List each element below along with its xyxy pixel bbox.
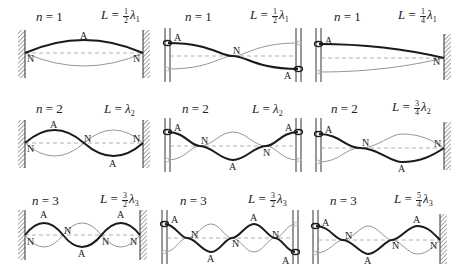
node-marker: N	[191, 230, 198, 240]
node-marker: N	[232, 239, 239, 249]
antinode-marker: A	[284, 71, 291, 81]
right-wall	[444, 34, 451, 80]
antinode-marker: A	[40, 210, 47, 220]
node-marker: N	[27, 144, 34, 154]
node-marker: N	[102, 237, 109, 247]
antinode-marker: A	[325, 125, 332, 135]
node-marker: N	[345, 231, 352, 241]
mode-label-n: n = 3	[32, 194, 59, 207]
antinode-marker: A	[174, 33, 181, 43]
node-marker: N	[430, 241, 437, 251]
antinode-marker: A	[250, 213, 257, 223]
antinode-marker: A	[398, 164, 405, 174]
antinode-marker: A	[322, 218, 329, 228]
wave-ghost	[319, 58, 444, 72]
mode-label-n: n = 2	[331, 102, 358, 115]
node-marker: N	[201, 136, 208, 146]
length-label: L = 54λ3	[394, 192, 433, 209]
node-marker: N	[64, 226, 71, 236]
antinode-marker: A	[282, 256, 289, 266]
antinode-marker: A	[117, 210, 124, 220]
node-marker: N	[433, 57, 440, 67]
antinode-marker: A	[229, 162, 236, 172]
length-label: L = λ2	[104, 102, 135, 118]
length-label: L = 32λ3	[248, 192, 287, 209]
wave-main	[25, 40, 143, 53]
wave-ghost	[25, 53, 143, 66]
left-wall	[18, 30, 25, 78]
node-marker: N	[233, 46, 240, 56]
node-marker: N	[133, 134, 140, 144]
antinode-marker: A	[174, 123, 181, 133]
node-marker: N	[133, 54, 140, 64]
node-marker: N	[272, 230, 279, 240]
length-label: L = 12λ1	[250, 8, 289, 25]
mode-label-n: n = 1	[334, 10, 361, 23]
length-label: L = 34λ2	[392, 100, 431, 117]
mode-label-n: n = 2	[182, 102, 209, 115]
length-label: L = λ2	[252, 102, 283, 118]
node-marker: N	[434, 139, 441, 149]
mode-label-n: n = 1	[185, 10, 212, 23]
right-wall	[143, 30, 150, 78]
antinode-marker: A	[325, 36, 332, 46]
antinode-marker: A	[78, 249, 85, 259]
node-marker: N	[362, 138, 369, 148]
node-marker: N	[130, 237, 137, 247]
node-marker: N	[27, 54, 34, 64]
antinode-marker: A	[207, 254, 214, 264]
wave-main	[319, 44, 444, 58]
panel-fixed-fixed-n2	[18, 120, 150, 168]
antinode-marker: A	[413, 215, 420, 225]
mode-label-n: n = 3	[330, 194, 357, 207]
mode-label-n: n = 1	[36, 10, 63, 23]
node-marker: N	[392, 241, 399, 251]
node-marker: N	[263, 148, 270, 158]
length-label: L = 12λ1	[101, 8, 140, 25]
panel-free-fixed-n1	[315, 28, 452, 82]
panel-free-fixed-n2	[315, 118, 452, 172]
node-marker: N	[84, 134, 91, 144]
antinode-marker: A	[80, 31, 87, 41]
node-marker: N	[27, 237, 34, 247]
antinode-marker: A	[171, 215, 178, 225]
antinode-marker: A	[109, 159, 116, 169]
antinode-marker: A	[285, 123, 292, 133]
length-label: L = 14λ1	[398, 8, 437, 25]
mode-label-n: n = 3	[180, 194, 207, 207]
standing-wave-diagram: n = 1 L = 12λ1 n = 1 L = 12λ1 n = 1 L = …	[0, 0, 457, 275]
panel-free-fixed-n3	[312, 210, 448, 264]
mode-label-n: n = 2	[36, 102, 63, 115]
antinode-marker: A	[364, 256, 371, 266]
length-label: L = 32λ3	[100, 192, 139, 209]
antinode-marker: A	[50, 120, 57, 130]
